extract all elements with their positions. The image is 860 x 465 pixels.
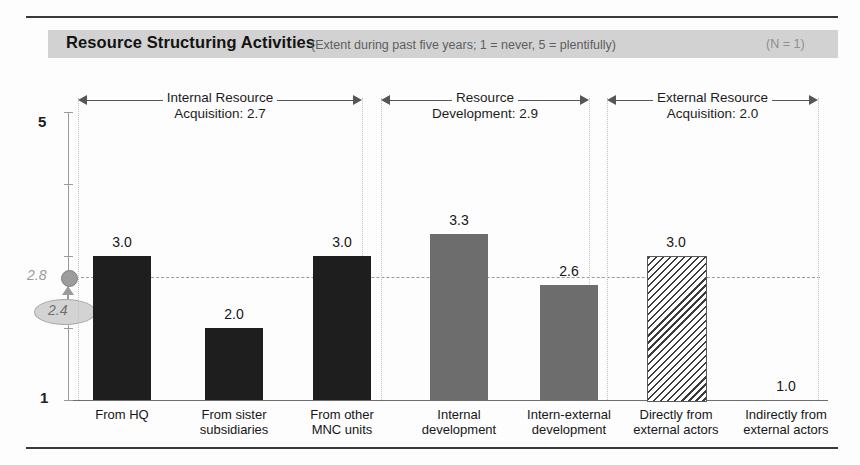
page-title: Resource Structuring Activities	[66, 33, 315, 52]
group-divider-6	[818, 98, 819, 400]
bar-6	[647, 256, 707, 402]
bar-4	[430, 234, 488, 400]
reference-value-label: 2.8	[27, 267, 46, 283]
sample-size-label: (N = 1)	[766, 37, 805, 51]
x-label-line1: Indirectly from	[726, 407, 846, 422]
title-subtitle: (Extent during past five years; 1 = neve…	[311, 38, 616, 52]
x-label-line2: development	[399, 422, 519, 437]
x-label-line1: From sister	[174, 407, 294, 422]
x-label-line1: From HQ	[62, 407, 182, 422]
x-axis-label-1: From HQ	[62, 407, 182, 422]
group-bracket-external-acquisition: External Resource Acquisition: 2.0	[607, 90, 818, 136]
y-tick-1	[64, 400, 73, 401]
group-bracket-internal-acquisition: Internal Resource Acquisition: 2.7	[78, 90, 362, 136]
x-label-line1: Intern-external	[509, 407, 629, 422]
x-axis-label-2: From sistersubsidiaries	[174, 407, 294, 437]
bar-value-label-1: 3.0	[77, 234, 167, 250]
top-divider	[26, 16, 838, 18]
x-axis-label-5: Intern-externaldevelopment	[509, 407, 629, 437]
x-axis-label-7: Indirectly fromexternal actors	[726, 407, 846, 437]
x-axis-label-3: From otherMNC units	[282, 407, 402, 437]
y-tick-4	[64, 184, 73, 185]
bar-5	[540, 285, 598, 400]
y-tick-5	[64, 112, 73, 113]
group-label-line1: External Resource	[653, 90, 772, 106]
x-label-line1: Internal	[399, 407, 519, 422]
group-bracket-resource-development: Resource Development: 2.9	[381, 90, 589, 136]
x-label-line1: Directly from	[616, 407, 736, 422]
x-label-line2: development	[509, 422, 629, 437]
group-label-line1: Internal Resource	[163, 90, 278, 106]
callout-value-label: 2.4	[48, 302, 67, 318]
y-tick-3	[64, 256, 73, 257]
group-label-line2: Acquisition: 2.0	[607, 106, 818, 122]
x-label-line1: From other	[282, 407, 402, 422]
reference-marker-dot	[61, 270, 78, 287]
bar-value-label-2: 2.0	[189, 306, 279, 322]
x-label-line2: subsidiaries	[174, 422, 294, 437]
group-divider-5	[607, 98, 608, 400]
x-axis-label-4: Internaldevelopment	[399, 407, 519, 437]
y-tick-2	[64, 328, 73, 329]
bar-2	[205, 328, 263, 400]
bar-3	[313, 256, 371, 400]
bar-1	[93, 256, 151, 400]
y-axis-label-min: 1	[40, 389, 48, 406]
x-label-line2: external actors	[726, 422, 846, 437]
x-label-line2: external actors	[616, 422, 736, 437]
chart-page: Resource Structuring Activities (Extent …	[0, 0, 860, 465]
group-label-line1: Resource	[452, 90, 518, 106]
bar-value-label-5: 2.6	[524, 263, 614, 279]
bar-value-label-6: 3.0	[631, 234, 721, 250]
x-label-line2: MNC units	[282, 422, 402, 437]
bottom-divider	[26, 447, 838, 449]
x-axis-line	[68, 400, 828, 401]
bar-value-label-7: 1.0	[741, 378, 831, 394]
group-label-line2: Development: 2.9	[381, 106, 589, 122]
bar-value-label-3: 3.0	[297, 234, 387, 250]
group-label-line2: Acquisition: 2.7	[78, 106, 362, 122]
bar-value-label-4: 3.3	[414, 212, 504, 228]
x-axis-label-6: Directly fromexternal actors	[616, 407, 736, 437]
y-axis-label-max: 5	[38, 113, 46, 130]
